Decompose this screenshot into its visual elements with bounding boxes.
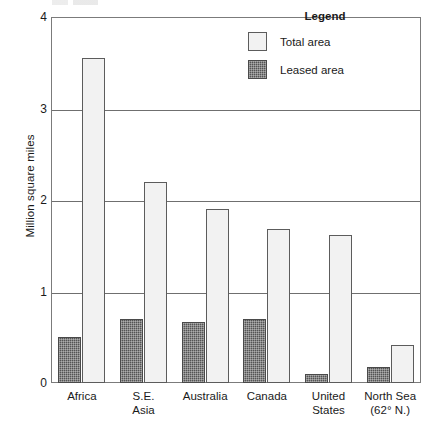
legend-rows: Total areaLeased area <box>228 32 388 79</box>
legend-item-label: Total area <box>280 36 331 48</box>
bar-leased-area <box>367 367 390 383</box>
x-tick-label-line: Australia <box>174 389 236 403</box>
bar-leased-area <box>58 337 81 383</box>
bar-leased-area <box>305 374 328 383</box>
bar-leased-area <box>182 322 205 383</box>
legend-item: Total area <box>248 32 388 51</box>
bar-total-area <box>144 182 167 383</box>
y-axis-title: Million square miles <box>24 86 36 286</box>
legend-item: Leased area <box>248 60 388 79</box>
y-tick-label: 3 <box>7 103 47 115</box>
x-tick-label-line: United <box>298 389 360 403</box>
x-tick-label: Australia <box>174 389 236 403</box>
x-tick-label-line: Africa <box>51 389 113 403</box>
y-tick-label: 1 <box>7 286 47 298</box>
legend-swatch-total <box>248 32 267 51</box>
bar-total-area <box>206 209 229 383</box>
x-tick-label-line: S.E. <box>113 389 175 403</box>
bar-group <box>120 17 167 383</box>
legend-item-label: Leased area <box>280 64 344 76</box>
y-tick-label: 0 <box>7 377 47 389</box>
bar-chart-figure: Million square miles 01234 AfricaS.E.Asi… <box>0 0 431 443</box>
x-tick-label: Canada <box>236 389 298 403</box>
bar-group <box>58 17 105 383</box>
x-tick-label: Africa <box>51 389 113 403</box>
x-tick-label-line: Canada <box>236 389 298 403</box>
x-tick-label-line: North Sea <box>359 389 421 403</box>
y-tick-label: 4 <box>7 11 47 23</box>
x-axis-tick-labels: AfricaS.E.AsiaAustraliaCanadaUnitedState… <box>51 389 421 439</box>
x-tick-label-line: (62° N.) <box>359 403 421 417</box>
bar-total-area <box>391 345 414 383</box>
x-tick-label-line: States <box>298 403 360 417</box>
x-tick-label: UnitedStates <box>298 389 360 417</box>
x-tick-label: S.E.Asia <box>113 389 175 417</box>
bar-group <box>182 17 229 383</box>
chart-legend: Legend Total areaLeased area <box>228 10 388 92</box>
bar-total-area <box>267 229 290 383</box>
bar-total-area <box>329 235 352 383</box>
legend-title: Legend <box>262 10 388 22</box>
legend-swatch-leased <box>248 60 267 79</box>
x-tick-label: North Sea(62° N.) <box>359 389 421 417</box>
scan-artifact <box>52 0 98 5</box>
x-tick-label-line: Asia <box>113 403 175 417</box>
bar-total-area <box>82 58 105 383</box>
bar-leased-area <box>120 319 143 383</box>
bar-leased-area <box>243 319 266 383</box>
y-tick-label: 2 <box>7 194 47 206</box>
